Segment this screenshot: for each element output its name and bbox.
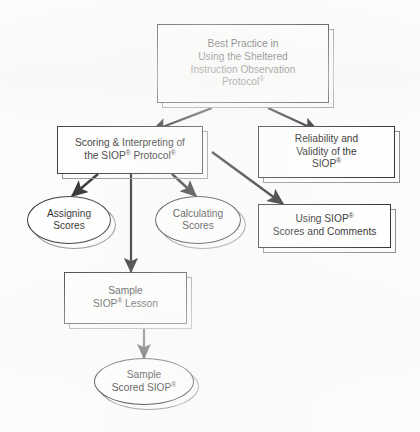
scoring-interpreting-label: Scoring & Interpreting ofthe SIOP® Proto…: [69, 137, 191, 162]
node-calculating-scores[interactable]: CalculatingScores: [155, 196, 241, 244]
best-practice-label: Best Practice inUsing the ShelteredInstr…: [185, 38, 302, 88]
flowchart-diagram: Best Practice inUsing the ShelteredInstr…: [0, 0, 420, 432]
registered-mark-icon: ®: [259, 75, 264, 82]
registered-mark-icon: ®: [336, 157, 341, 164]
node-scoring-interpreting[interactable]: Scoring & Interpreting ofthe SIOP® Proto…: [57, 126, 203, 174]
registered-mark-icon: ®: [171, 149, 176, 156]
using-siop-scores-label: Using SIOP®Scores and Comments: [267, 213, 383, 238]
sample-scored-siop-label: SampleScored SIOP®: [112, 369, 176, 394]
sample-siop-lesson-label: SampleSIOP® Lesson: [87, 285, 164, 310]
node-assigning-scores[interactable]: AssigningScores: [27, 196, 111, 244]
registered-mark-icon: ®: [349, 212, 354, 219]
reliability-validity-label: Reliability andValidity of theSIOP®: [289, 133, 364, 171]
registered-mark-icon: ®: [171, 380, 176, 387]
node-using-siop-scores[interactable]: Using SIOP®Scores and Comments: [258, 204, 391, 248]
calculating-scores-label: CalculatingScores: [173, 208, 223, 233]
node-best-practice[interactable]: Best Practice inUsing the ShelteredInstr…: [157, 24, 329, 103]
node-sample-siop-lesson[interactable]: SampleSIOP® Lesson: [64, 272, 187, 324]
assigning-scores-label: AssigningScores: [47, 208, 91, 233]
node-sample-scored-siop[interactable]: SampleScored SIOP®: [94, 358, 194, 405]
node-reliability-validity[interactable]: Reliability andValidity of theSIOP®: [258, 126, 395, 178]
